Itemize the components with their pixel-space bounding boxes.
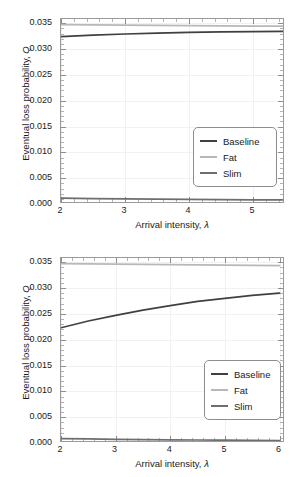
x-axis-title-text-top: Arrival intensity, (135, 219, 204, 230)
series-line-fat (61, 25, 284, 27)
series-line-baseline (61, 31, 284, 36)
y-tick-label: 0.000 (29, 437, 52, 447)
y-axis-title-symbol-top: Q (20, 46, 31, 53)
x-tick-label: 4 (167, 444, 172, 455)
legend-item-baseline: Baseline (200, 133, 269, 149)
series-line-slim (61, 198, 284, 200)
x-tick-label: 5 (249, 205, 254, 216)
legend-label: Baseline (234, 369, 270, 380)
y-tick-label: 0.025 (29, 69, 52, 79)
y-tick-label: 0.010 (29, 385, 52, 395)
y-tick-label: 0.030 (29, 282, 52, 292)
legend-swatch-icon (200, 172, 217, 174)
legend-label: Fat (223, 152, 237, 163)
x-tick-label: 6 (276, 444, 281, 455)
chart-panel-bottom: 0.0000.0050.0100.0150.0200.0250.0300.035… (0, 239, 300, 477)
x-tick-label: 5 (221, 444, 226, 455)
y-tick-label: 0.005 (29, 411, 52, 421)
y-axis-title-text-bottom: Eventual loss probability, (20, 293, 31, 400)
x-tick-label: 3 (112, 444, 117, 455)
x-axis-title-bottom: Arrival intensity, λ (60, 458, 284, 469)
y-tick-label: 0.035 (29, 256, 52, 266)
y-tick-label: 0.010 (29, 146, 52, 156)
x-axis-title-text-bottom: Arrival intensity, (135, 458, 204, 469)
x-tick-labels-top: 2345 (60, 205, 284, 219)
x-axis-title-symbol-top: λ (204, 219, 209, 230)
legend-swatch-icon (211, 389, 228, 391)
legend-top: BaselineFatSlim (193, 127, 277, 187)
series-line-fat (61, 264, 280, 266)
chart-panel-top: 0.0000.0050.0100.0150.0200.0250.0300.035… (0, 0, 300, 238)
legend-item-baseline: Baseline (211, 366, 273, 382)
y-tick-label: 0.035 (29, 17, 52, 27)
y-tick-label: 0.000 (29, 198, 52, 208)
y-tick-label: 0.015 (29, 360, 52, 370)
series-line-baseline (61, 293, 280, 328)
series-line-slim (61, 439, 280, 441)
y-tick-label: 0.005 (29, 172, 52, 182)
legend-label: Fat (234, 385, 248, 396)
x-tick-labels-bottom: 23456 (60, 444, 284, 458)
legend-swatch-icon (200, 140, 217, 142)
legend-item-fat: Fat (211, 382, 273, 398)
y-axis-title-top: Eventual loss probability, Q (20, 11, 31, 197)
x-axis-title-symbol-bottom: λ (204, 458, 209, 469)
legend-label: Slim (234, 401, 252, 412)
y-tick-label: 0.020 (29, 334, 52, 344)
legend-bottom: BaselineFatSlim (204, 360, 281, 420)
x-tick-label: 4 (185, 205, 190, 216)
y-axis-title-symbol-bottom: Q (20, 285, 31, 292)
y-tick-label: 0.030 (29, 43, 52, 53)
y-tick-label: 0.020 (29, 95, 52, 105)
legend-label: Slim (223, 168, 241, 179)
y-tick-label: 0.015 (29, 121, 52, 131)
x-tick-label: 2 (57, 444, 62, 455)
legend-item-fat: Fat (200, 149, 269, 165)
figure-two-panel-line-charts: 0.0000.0050.0100.0150.0200.0250.0300.035… (0, 0, 300, 477)
y-axis-title-text-top: Eventual loss probability, (20, 54, 31, 161)
legend-item-slim: Slim (211, 398, 273, 414)
legend-item-slim: Slim (200, 165, 269, 181)
y-axis-title-bottom: Eventual loss probability, Q (20, 250, 31, 436)
x-axis-title-top: Arrival intensity, λ (60, 219, 284, 230)
legend-swatch-icon (200, 156, 217, 158)
x-tick-label: 2 (57, 205, 62, 216)
legend-swatch-icon (211, 373, 228, 375)
x-tick-label: 3 (121, 205, 126, 216)
legend-swatch-icon (211, 405, 228, 407)
y-tick-label: 0.025 (29, 308, 52, 318)
legend-label: Baseline (223, 136, 259, 147)
